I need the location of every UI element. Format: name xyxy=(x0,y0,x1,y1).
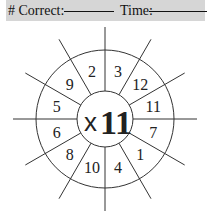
wheel-number: 2 xyxy=(88,63,96,80)
wheel-number: 7 xyxy=(149,124,157,141)
spoke-line xyxy=(59,39,91,94)
wheel-number: 9 xyxy=(66,76,74,93)
wheel-number: 10 xyxy=(84,159,100,176)
wheel-number: 12 xyxy=(132,76,148,93)
wheel-number: 4 xyxy=(114,159,122,176)
wheel-number: 3 xyxy=(114,63,122,80)
wheel-number: 6 xyxy=(53,124,61,141)
multiplier-number: 11 xyxy=(100,104,132,141)
wheel-number: 5 xyxy=(53,98,61,115)
wheel-number: 1 xyxy=(136,146,144,163)
multiplication-wheel: 312117141086592 x 11 xyxy=(0,0,216,224)
wheel-number: 11 xyxy=(146,98,161,115)
spoke-line xyxy=(119,143,151,198)
wheel-number: 8 xyxy=(66,146,74,163)
operator-symbol: x xyxy=(84,107,97,137)
